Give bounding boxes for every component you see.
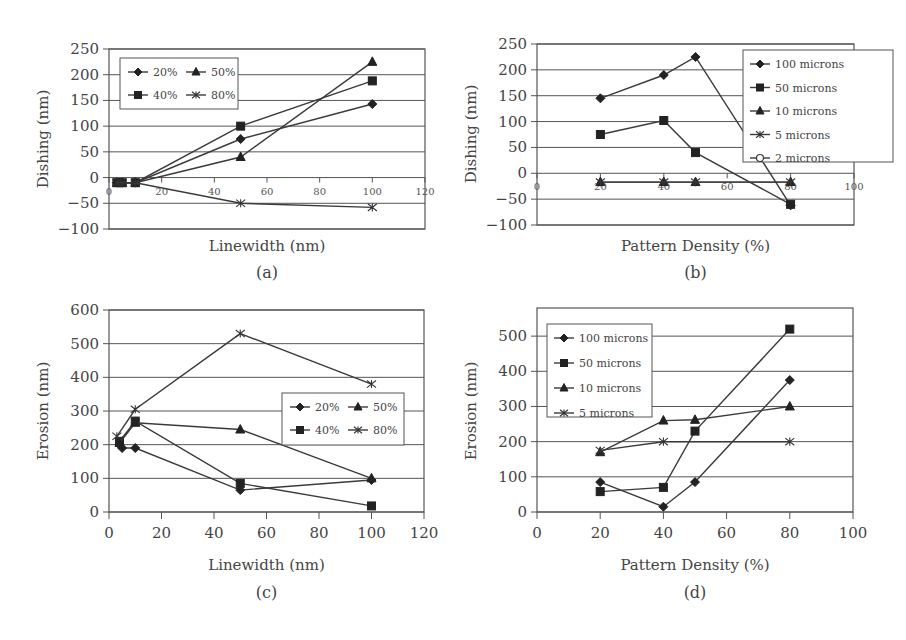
- series-line: [120, 445, 372, 490]
- y-tick-label: 0: [517, 164, 527, 182]
- legend-label: 40%: [315, 424, 339, 437]
- x-marker: [131, 405, 140, 413]
- x-tick-label: 80: [309, 524, 328, 542]
- legend: 100 microns50 microns10 microns5 microns: [547, 324, 652, 420]
- diamond-marker: [236, 135, 245, 144]
- diamond-marker: [596, 94, 605, 103]
- y-tick-label: 100: [498, 468, 527, 486]
- diamond-marker: [659, 71, 668, 80]
- panel-caption: (b): [684, 263, 707, 282]
- x-tick-label: 0: [532, 524, 542, 542]
- y-tick-label: 150: [70, 91, 99, 109]
- series-20-: [115, 440, 376, 494]
- legend-label: 50%: [373, 401, 397, 414]
- y-axis-title: Erosion (nm): [34, 362, 52, 461]
- legend-label: 5 microns: [775, 129, 831, 142]
- y-tick-label: 200: [70, 436, 99, 454]
- y-tick-label: 150: [498, 87, 527, 105]
- y-axis-title: Erosion (nm): [462, 362, 480, 461]
- legend-label: 2 microns: [775, 152, 831, 165]
- y-tick-label: 500: [498, 327, 527, 345]
- y-tick-label: 50: [508, 138, 527, 156]
- square-marker: [692, 149, 700, 157]
- series-line: [117, 104, 372, 183]
- x-tick-label: 120: [410, 524, 439, 542]
- legend-label: 80%: [211, 89, 235, 102]
- y-tick-label: 100: [70, 469, 99, 487]
- y-tick-label: 250: [498, 35, 527, 53]
- y-tick-label: 600: [70, 301, 99, 319]
- panel-caption: (d): [684, 583, 707, 602]
- y-tick-label: 200: [498, 61, 527, 79]
- chart-panel-a: −100−50050100150200250020406080100120Dis…: [34, 40, 435, 282]
- legend-label: 10 microns: [775, 105, 838, 118]
- x-tick-label: 40: [204, 524, 223, 542]
- x-tick-label: 80: [780, 524, 799, 542]
- series-5-microns: [596, 178, 795, 186]
- legend-label: 80%: [373, 424, 397, 437]
- x-tick-label: 100: [839, 524, 868, 542]
- square-marker: [757, 84, 764, 91]
- square-marker: [368, 77, 376, 85]
- square-marker: [660, 117, 668, 125]
- y-tick-label: 0: [89, 503, 99, 521]
- x-axis-title: Pattern Density (%): [620, 556, 769, 574]
- x-tick-label: 0: [534, 181, 540, 192]
- square-marker: [596, 488, 604, 496]
- x-tick-label: 60: [721, 181, 734, 192]
- triangle-marker: [785, 401, 794, 410]
- legend-label: 20%: [153, 66, 177, 79]
- legend-label: 100 microns: [579, 332, 649, 345]
- x-tick-label: 120: [415, 186, 434, 197]
- x-tick-label: 100: [363, 186, 382, 197]
- square-marker: [787, 200, 795, 208]
- legend-label: 50%: [211, 66, 235, 79]
- x-marker: [236, 330, 245, 338]
- series-80-: [112, 179, 376, 212]
- y-tick-label: 400: [498, 362, 527, 380]
- square-marker: [237, 122, 245, 130]
- y-tick-label: 200: [70, 66, 99, 84]
- legend-label: 100 microns: [775, 58, 845, 71]
- x-tick-label: 40: [208, 186, 221, 197]
- legend-label: 10 microns: [579, 382, 642, 395]
- x-marker: [112, 432, 121, 440]
- legend: 100 microns50 microns10 microns5 microns…: [743, 50, 893, 165]
- y-tick-label: −50: [495, 190, 527, 208]
- legend: 20%50%40%80%: [282, 393, 404, 445]
- square-marker: [659, 483, 667, 491]
- y-tick-label: 100: [70, 117, 99, 135]
- y-axis-title: Dishing (nm): [462, 85, 480, 184]
- y-tick-label: 300: [498, 397, 527, 415]
- legend-label: 50 microns: [775, 82, 838, 95]
- figure-canvas: −100−50050100150200250020406080100120Dis…: [0, 0, 906, 640]
- square-marker: [135, 92, 142, 99]
- y-tick-label: −50: [67, 194, 99, 212]
- x-tick-label: 80: [313, 186, 326, 197]
- y-tick-label: 300: [70, 402, 99, 420]
- square-marker: [236, 479, 244, 487]
- x-tick-label: 60: [261, 186, 274, 197]
- panel-caption: (c): [256, 583, 277, 602]
- chart-panel-c: 0100200300400500600020406080100120Erosio…: [34, 301, 438, 602]
- x-axis-title: Pattern Density (%): [621, 237, 770, 255]
- x-axis-title: Linewidth (nm): [208, 556, 325, 574]
- y-tick-label: 200: [498, 433, 527, 451]
- x-tick-label: 20: [152, 524, 171, 542]
- y-tick-label: 250: [70, 40, 99, 58]
- y-tick-label: 50: [80, 143, 99, 161]
- y-tick-label: −100: [486, 216, 527, 234]
- panel-caption: (a): [256, 263, 278, 282]
- square-marker: [691, 427, 699, 435]
- triangle-marker: [659, 416, 668, 425]
- x-axis-title: Linewidth (nm): [209, 237, 326, 255]
- y-tick-label: 0: [517, 503, 527, 521]
- triangle-marker: [368, 57, 377, 65]
- square-marker: [368, 502, 376, 510]
- square-marker: [596, 131, 604, 139]
- x-tick-label: 20: [591, 524, 610, 542]
- triangle-marker: [236, 152, 245, 161]
- chart-panel-d: 0100200300400500020406080100Erosion (nm)…: [462, 308, 867, 602]
- x-tick-label: 100: [844, 181, 863, 192]
- x-tick-label: 60: [257, 524, 276, 542]
